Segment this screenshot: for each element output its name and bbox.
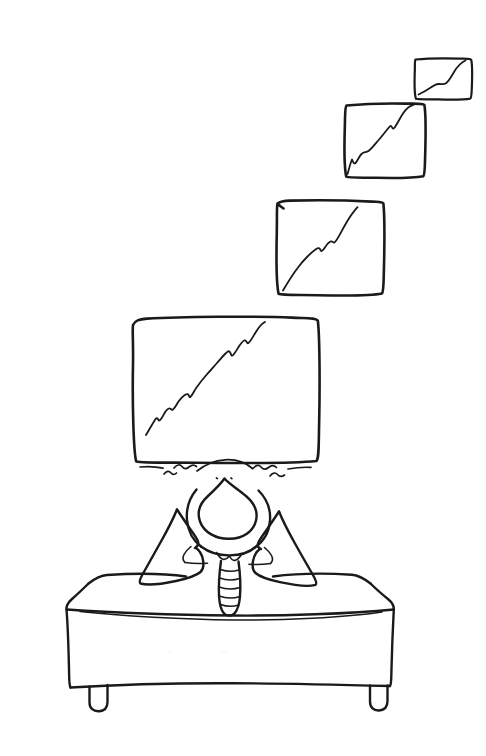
head-dot-right-icon — [231, 478, 232, 479]
sleeve-cuff-left — [183, 547, 191, 563]
hair-tuft-right-upper-icon — [253, 465, 277, 469]
collar-bottom — [201, 547, 256, 556]
head-dot-left-icon — [217, 478, 218, 479]
screen-4[interactable] — [415, 58, 472, 99]
desk-side-right — [371, 584, 394, 687]
hand-left-crease — [185, 563, 208, 564]
screen-3-trendline — [348, 105, 414, 174]
tie-stripe-5 — [221, 605, 239, 607]
hair-strand-left-icon — [140, 467, 163, 469]
collar-right — [256, 491, 271, 548]
head-outline — [199, 479, 257, 539]
hair-tuft-right-lower-icon — [270, 473, 285, 476]
screen-1-trendline — [146, 322, 265, 435]
figure-necktie — [217, 553, 243, 616]
screen-2-frame — [277, 200, 385, 295]
tie-stripe-3 — [219, 587, 240, 589]
screen-3-frame — [345, 103, 426, 177]
hairline-top-icon — [197, 460, 253, 471]
desk-side-left — [66, 584, 88, 688]
desk-faint-inscription: — ····· · ···· — — [166, 648, 229, 655]
screen-2[interactable] — [277, 200, 385, 295]
screen-1-frame — [133, 317, 320, 463]
tie-stripe-2 — [220, 578, 240, 580]
desk-top-back-right — [273, 574, 371, 584]
sleeve-cuff-right — [265, 548, 273, 564]
desk-leg-right — [370, 686, 388, 711]
tie-stripe-4 — [219, 596, 240, 598]
hair-tuft-left-upper-icon — [174, 465, 197, 469]
screen-2-trendline — [283, 207, 358, 290]
cartoon-canvas: Businessman celebrating rising stock cha… — [0, 0, 486, 756]
screen-4-trendline — [419, 61, 466, 95]
screen-4-frame — [415, 58, 472, 99]
hair-strand-right-icon — [288, 467, 311, 469]
screen-1[interactable] — [133, 317, 320, 463]
hand-right-crease — [249, 564, 271, 565]
desk-leg-left — [90, 685, 108, 711]
hair-tuft-left-lower-icon — [164, 471, 177, 474]
cartoon-illustration — [0, 0, 486, 756]
screen-3[interactable] — [345, 103, 426, 177]
desk[interactable] — [66, 574, 393, 711]
figure-head — [199, 479, 257, 539]
desk-bottom-edge — [71, 683, 391, 687]
tie-stripe-1 — [221, 570, 240, 572]
